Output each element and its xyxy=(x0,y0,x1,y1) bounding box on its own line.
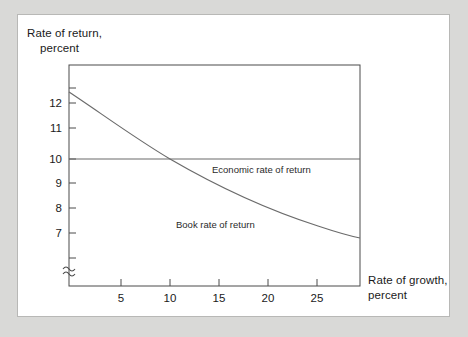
x-tick-label-5: 5 xyxy=(118,292,124,304)
series-label-economic-rate-of-return: Economic rate of return xyxy=(212,164,311,175)
y-tick-label-12: 12 xyxy=(49,97,62,109)
x-tick-label-25: 25 xyxy=(311,292,324,304)
y-tick-label-7: 7 xyxy=(56,227,62,239)
y-tick-label-8: 8 xyxy=(56,202,62,214)
y-axis-ticks xyxy=(69,88,76,258)
plot-frame xyxy=(69,65,360,286)
x-axis-ticks xyxy=(121,279,317,286)
y-tick-label-10: 10 xyxy=(49,153,62,165)
page-background: Rate of return, percent Rate of growth, … xyxy=(0,0,468,337)
x-tick-label-20: 20 xyxy=(262,292,275,304)
chart-figure: Rate of return, percent Rate of growth, … xyxy=(18,15,451,318)
y-axis-tick-labels: 12 11 10 9 8 7 xyxy=(49,97,62,239)
plot-area: 12 11 10 9 8 7 xyxy=(18,15,451,318)
x-tick-label-10: 10 xyxy=(164,292,177,304)
figure-card: Rate of return, percent Rate of growth, … xyxy=(17,14,450,317)
x-tick-label-15: 15 xyxy=(213,292,226,304)
x-axis-tick-labels: 5 10 15 20 25 xyxy=(118,292,324,304)
y-tick-label-9: 9 xyxy=(56,177,62,189)
series-label-book-rate-of-return: Book rate of return xyxy=(176,219,255,230)
y-tick-label-11: 11 xyxy=(50,122,62,134)
